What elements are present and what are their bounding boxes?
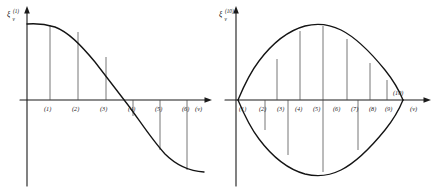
y-axis-arrowhead xyxy=(233,6,239,14)
tick-label-6: (6) xyxy=(182,105,189,113)
curve-xi-nu-1 xyxy=(27,24,204,172)
tick-label-2: (2) xyxy=(259,105,266,113)
y-axis-label-subscript: ν xyxy=(13,16,16,22)
y-axis-label-superscript: (10) xyxy=(225,8,234,15)
tick-label-8: (8) xyxy=(369,105,376,113)
tick-label-7: (7) xyxy=(351,105,358,113)
panel-left: ξ ν (1) (1) (2) (3) (4) (5) (6) (ν) xyxy=(0,0,218,189)
curve-upper-envelope xyxy=(238,24,403,100)
y-axis-label-symbol: ξ xyxy=(219,10,223,19)
tick-label-4: (4) xyxy=(295,105,302,113)
panel-right-plot: (10) ξ ν (10) (1) (2) (3) (4) (5) (6) (7… xyxy=(217,0,435,189)
x-axis-arrowhead xyxy=(424,97,432,102)
tick-label-3: (3) xyxy=(277,105,284,113)
y-axis-arrowhead xyxy=(24,6,30,14)
y-axis-label: ξ ν (1) xyxy=(7,8,19,22)
x-axis-label: (ν) xyxy=(410,105,417,113)
tick-label-9: (9) xyxy=(385,105,392,113)
tick-label-2: (2) xyxy=(72,105,79,113)
y-axis-label: ξ ν (10) xyxy=(219,8,234,22)
tick-label-6: (6) xyxy=(333,105,340,113)
panel-left-plot: ξ ν (1) (1) (2) (3) (4) (5) (6) (ν) xyxy=(0,0,218,189)
y-axis-label-subscript: ν xyxy=(225,16,228,22)
tick-label-3: (3) xyxy=(100,105,107,113)
panel-right: (10) ξ ν (10) (1) (2) (3) (4) (5) (6) (7… xyxy=(217,0,435,189)
figure-root: ξ ν (1) (1) (2) (3) (4) (5) (6) (ν) xyxy=(0,0,435,189)
tick-label-4: (4) xyxy=(128,105,135,113)
tick-label-1: (1) xyxy=(239,105,246,113)
tick-label-5: (5) xyxy=(155,105,162,113)
y-axis-label-superscript: (1) xyxy=(13,8,19,15)
y-axis-label-symbol: ξ xyxy=(7,10,11,19)
endpoint-label-10: (10) xyxy=(393,89,403,97)
tick-label-1: (1) xyxy=(44,105,51,113)
tick-label-5: (5) xyxy=(313,105,320,113)
x-axis-arrowhead xyxy=(205,97,213,102)
x-axis-label: (ν) xyxy=(195,105,202,113)
